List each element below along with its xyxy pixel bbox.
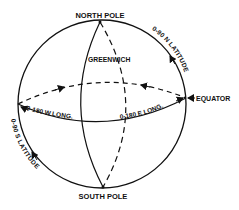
globe-svg: NORTH POLE SOUTH POLE GREENWICH EQUATOR …: [0, 0, 239, 210]
west-longitude-label: 0-180 W LONG.: [26, 104, 73, 119]
back-meridian-dashed: [100, 22, 126, 187]
north-pole-point: [99, 21, 102, 24]
north-pole-label: NORTH POLE: [75, 11, 124, 20]
north-latitude-label: 0-90 N LATITUDE: [151, 25, 190, 74]
globe-diagram: NORTH POLE SOUTH POLE GREENWICH EQUATOR …: [0, 0, 239, 210]
greenwich-label: GREENWICH: [88, 56, 130, 63]
greenwich-meridian: [81, 22, 103, 187]
south-pole-label: SOUTH POLE: [79, 192, 128, 201]
south-latitude-label: 0-90 S LATITUDE: [10, 118, 41, 170]
equator-label: EQUATOR: [196, 95, 230, 103]
equator-back-dashed: [18, 82, 186, 104]
south-pole-point: [102, 186, 105, 189]
